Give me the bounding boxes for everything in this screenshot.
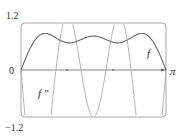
f-curve (21, 33, 166, 70)
fpp-series-label: f ″ (38, 87, 49, 99)
f-series-label: f (147, 47, 152, 59)
x-end-label: π (170, 65, 176, 77)
chart: 1.2 −1.2 0 π f f ″ (0, 0, 187, 137)
y-top-label: 1.2 (6, 10, 19, 21)
y-bottom-label: −1.2 (5, 122, 23, 133)
origin-label: 0 (9, 65, 14, 76)
